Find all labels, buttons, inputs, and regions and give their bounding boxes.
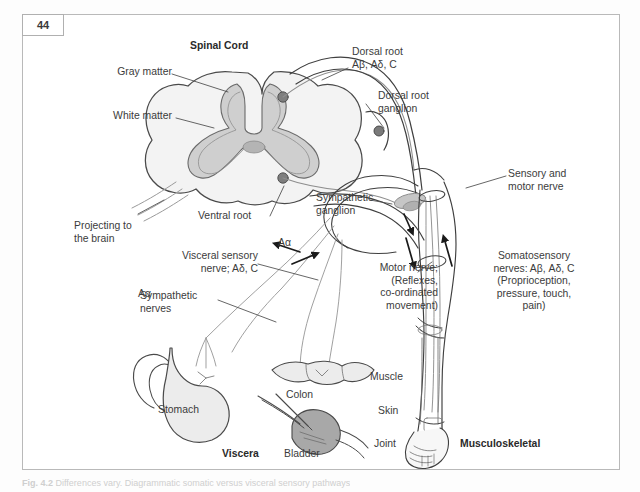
label-visceral-sensory-nerve: Visceral sensory nerve; Aδ, C xyxy=(118,250,258,275)
label-muscle: Muscle xyxy=(370,371,403,384)
label-gray-matter: Gray matter xyxy=(32,66,172,79)
label-projecting-to-brain: Projecting to the brain xyxy=(74,220,132,245)
label-white-matter: White matter xyxy=(32,110,172,123)
label-ventral-root: Ventral root xyxy=(198,210,251,223)
label-aalpha-arrow: Aα xyxy=(278,237,291,250)
label-viscera: Viscera xyxy=(222,448,259,461)
page-number-text: 44 xyxy=(37,19,49,31)
label-joint: Joint xyxy=(374,438,396,451)
label-sympathetic-nerves: Sympathetic nerves xyxy=(140,290,197,315)
figure-caption-text: Differences vary. Diagrammatic somatic v… xyxy=(56,478,351,488)
label-spinal-cord: Spinal Cord xyxy=(190,40,248,53)
label-sympathetic-ganglion: Sympathetic ganglion xyxy=(316,192,373,217)
label-somatosensory-nerves: Somatosensory nerves: Aβ, Aδ, C (Proprio… xyxy=(470,250,598,313)
limb-musculoskeletal xyxy=(405,168,456,468)
label-dorsal-root: Dorsal root Aβ, Aδ, C xyxy=(352,46,403,71)
label-motor-nerve: Motor nerve; (Reflexes, co-ordinated mov… xyxy=(320,262,438,312)
figure-caption-number: Fig. 4.2 xyxy=(22,478,53,488)
label-musculoskeletal: Musculoskeletal xyxy=(460,438,540,451)
label-colon: Colon xyxy=(286,389,313,402)
page-number-box: 44 xyxy=(22,14,64,36)
label-sensory-and-motor-nerve: Sensory and motor nerve xyxy=(508,168,566,193)
label-stomach: Stomach xyxy=(158,404,199,417)
page-root: 44 xyxy=(0,0,640,492)
colon-organ xyxy=(272,361,374,384)
label-skin: Skin xyxy=(378,405,398,418)
figure-caption: Fig. 4.2 Differences vary. Diagrammatic … xyxy=(22,478,350,490)
label-bladder: Bladder xyxy=(284,448,320,461)
label-dorsal-root-ganglion: Dorsal root ganglion xyxy=(378,90,429,115)
